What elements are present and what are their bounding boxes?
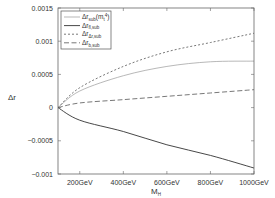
x-tick-label: 200GeV	[67, 179, 93, 186]
x-tick-label: 1000GeV	[239, 179, 269, 186]
y-tick-label: 0	[49, 104, 53, 111]
legend: Δrsub(mt4)Δrfl,subΔrΔr,subΔrb,sub	[61, 11, 111, 49]
x-tick-label: 400GeV	[110, 179, 136, 186]
series-line	[58, 61, 254, 107]
y-tick-label: 0.0015	[32, 5, 54, 12]
x-tick-label: 800GeV	[198, 179, 224, 186]
x-tick-label: 600GeV	[154, 179, 180, 186]
chart: 0.00150.0010.00050−0.0005−0.001 200GeV40…	[0, 0, 275, 198]
x-axis-label: MH	[151, 187, 161, 197]
y-tick-label: 0.0005	[32, 71, 54, 78]
plot-series	[58, 33, 254, 168]
y-tick-label: −0.0005	[28, 137, 54, 144]
y-tick-label: 0.001	[35, 38, 53, 45]
y-tick-label: −0.001	[31, 171, 53, 178]
series-line	[58, 90, 254, 108]
y-axis-label: Δr	[8, 93, 16, 102]
series-line	[58, 108, 254, 168]
